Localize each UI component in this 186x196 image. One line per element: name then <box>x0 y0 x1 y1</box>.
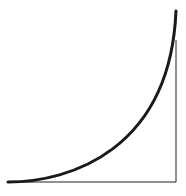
diagram-canvas <box>0 0 186 196</box>
exponential-curve <box>8 11 176 182</box>
